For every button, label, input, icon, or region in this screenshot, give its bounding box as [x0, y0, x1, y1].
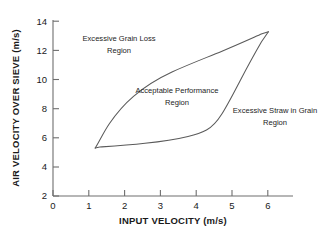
x-tick-label-1: 1: [86, 200, 91, 211]
annotation-excessive-grain-loss: Excessive Grain Loss Region: [82, 34, 155, 55]
acceptable-label-line1: Acceptable Performance: [135, 86, 218, 95]
y-axis-title: AIR VELOCITY OVER SIEVE (m/s): [10, 29, 21, 187]
acceptable-label-line2: Region: [165, 98, 189, 107]
x-tick-label-6: 6: [265, 200, 270, 211]
y-tick-label-6: 6: [42, 132, 47, 143]
y-tick-label-2: 2: [42, 190, 47, 201]
y-tick-label-8: 8: [42, 103, 47, 114]
x-tick-label-3: 3: [158, 200, 163, 211]
plot-area: 14 12 10 8 6 4 2 0 1 2 3 4 5 6 INPUT VEL…: [0, 0, 330, 233]
x-tick-label-4: 4: [194, 200, 199, 211]
x-tick-marks: [53, 190, 268, 196]
x-tick-label-0: 0: [50, 200, 55, 211]
y-tick-label-12: 12: [36, 45, 47, 56]
straw-label-line2: Region: [263, 118, 287, 127]
y-tick-labels: 14 12 10 8 6 4 2: [36, 16, 47, 202]
y-tick-label-10: 10: [36, 74, 47, 85]
y-tick-label-4: 4: [42, 161, 47, 172]
x-tick-label-2: 2: [122, 200, 127, 211]
x-tick-labels: 0 1 2 3 4 5 6: [50, 200, 270, 211]
x-tick-label-5: 5: [229, 200, 234, 211]
chart-figure: 14 12 10 8 6 4 2 0 1 2 3 4 5 6 INPUT VEL…: [0, 0, 330, 233]
grain-loss-label-line2: Region: [107, 46, 131, 55]
grain-loss-label-line1: Excessive Grain Loss: [82, 34, 155, 43]
y-tick-marks: [53, 21, 59, 196]
x-axis-title: INPUT VELOCITY (m/s): [119, 215, 227, 226]
straw-label-line1: Excessive Straw in Grain: [233, 106, 317, 115]
y-tick-label-14: 14: [36, 16, 47, 27]
annotation-excessive-straw-in-grain: Excessive Straw in Grain Region: [233, 106, 317, 127]
annotation-acceptable-performance: Acceptable Performance Region: [135, 86, 218, 107]
